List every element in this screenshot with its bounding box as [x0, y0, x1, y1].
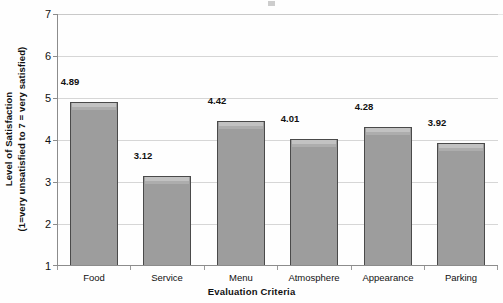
- bar-menu[interactable]: [217, 121, 265, 265]
- x-tick-label-menu: Menu: [204, 272, 278, 283]
- y-axis-title-line1: Level of Satisfaction: [2, 47, 15, 232]
- bar-chart: Level of Satisfaction (1=very unsatisfie…: [0, 0, 503, 303]
- y-axis-title: Level of Satisfaction (1=very unsatisfie…: [0, 0, 30, 278]
- bar-value-service: 3.12: [119, 150, 167, 161]
- x-tick-label-appearance: Appearance: [351, 272, 425, 283]
- gridline-7: [57, 14, 498, 15]
- bar-highlight-2: [366, 132, 410, 135]
- x-tickmark-6: [497, 266, 498, 270]
- gridline-6: [57, 56, 498, 57]
- y-tickmark-2: [53, 224, 57, 225]
- y-tick-label-6: 6: [29, 51, 51, 62]
- bar-highlight-2: [439, 148, 483, 151]
- y-tick-label-2: 2: [29, 219, 51, 230]
- gridline-3: [57, 182, 498, 183]
- y-tickmark-6: [53, 56, 57, 57]
- gridline-4: [57, 140, 498, 141]
- y-tick-label-7: 7: [29, 9, 51, 20]
- x-tickmark-5: [424, 266, 425, 270]
- scan-artifact: [268, 1, 275, 6]
- bar-value-appearance: 4.28: [340, 101, 388, 112]
- bar-atmosphere[interactable]: [290, 139, 338, 265]
- bar-food[interactable]: [70, 102, 118, 265]
- bar-value-food: 4.89: [46, 76, 94, 87]
- x-tickmark-1: [130, 266, 131, 270]
- bar-value-menu: 4.42: [193, 95, 241, 106]
- bar-value-parking: 3.92: [413, 117, 461, 128]
- x-tick-label-parking: Parking: [424, 272, 498, 283]
- bar-value-atmosphere: 4.01: [266, 113, 314, 124]
- bar-service[interactable]: [143, 176, 191, 265]
- bar-highlight-2: [219, 126, 263, 129]
- bar-highlight-2: [145, 181, 189, 184]
- y-tick-label-1: 1: [29, 261, 51, 272]
- y-tick-label-4: 4: [29, 135, 51, 146]
- x-tick-label-atmosphere: Atmosphere: [277, 272, 351, 283]
- x-tickmark-2: [204, 266, 205, 270]
- y-tick-label-5: 5: [29, 93, 51, 104]
- bar-appearance[interactable]: [364, 127, 412, 265]
- bar-highlight-2: [292, 144, 336, 147]
- x-tickmark-0: [57, 266, 58, 270]
- y-axis-title-line2: (1=very unsatisfied to 7 = very satisfie…: [15, 47, 28, 232]
- plot-area: [57, 14, 498, 266]
- y-tick-label-3: 3: [29, 177, 51, 188]
- bar-highlight-2: [72, 107, 116, 110]
- x-tickmark-3: [277, 266, 278, 270]
- y-tickmark-4: [53, 140, 57, 141]
- bar-parking[interactable]: [437, 143, 485, 265]
- gridline-2: [57, 224, 498, 225]
- x-tickmark-4: [351, 266, 352, 270]
- y-tickmark-7: [53, 14, 57, 15]
- gridline-5: [57, 98, 498, 99]
- y-tickmark-5: [53, 98, 57, 99]
- x-axis-title: Evaluation Criteria: [0, 286, 503, 297]
- y-axis-line: [57, 14, 58, 266]
- x-tick-label-food: Food: [57, 272, 131, 283]
- x-tick-label-service: Service: [130, 272, 204, 283]
- y-tickmark-3: [53, 182, 57, 183]
